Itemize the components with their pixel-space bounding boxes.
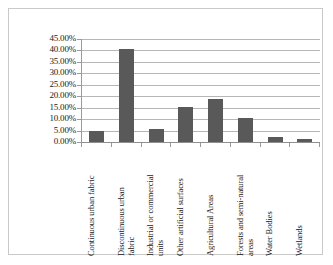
y-axis-tick-label: 45.00% [12, 34, 76, 43]
y-axis-tick-label: 25.00% [12, 80, 76, 89]
y-axis-tick-label: 35.00% [12, 57, 76, 66]
y-axis-tick-label: 0.00% [12, 137, 76, 146]
y-axis: 45.00%40.00%35.00%30.00%25.00%20.00%15.0… [9, 9, 81, 172]
x-axis-tick-mark [230, 143, 231, 147]
bar [119, 49, 134, 142]
y-axis-tick-label: 40.00% [12, 45, 76, 54]
x-axis-category-label: Continuous urban fabric [86, 148, 108, 256]
y-axis-tick-label: 15.00% [12, 103, 76, 112]
x-axis-category-label: Forests and semi-natural areas [235, 148, 257, 256]
x-axis-category-label: Industrial or commercial units [145, 148, 167, 256]
x-axis-tick-mark [141, 143, 142, 147]
x-axis-tick-mark [81, 143, 82, 147]
x-axis-tick-mark [260, 143, 261, 147]
bar [178, 107, 193, 142]
y-axis-tick-label: 20.00% [12, 91, 76, 100]
x-axis-labels: Continuous urban fabricDiscontinuous urb… [81, 148, 319, 258]
bar [208, 99, 223, 142]
y-axis-tick-label: 10.00% [12, 114, 76, 123]
x-axis-tick-mark [170, 143, 171, 147]
y-axis-tick-label: 30.00% [12, 68, 76, 77]
x-axis-category-label: Agricultural Areas [205, 148, 227, 256]
x-axis-category-label: Water Bodies [264, 148, 286, 256]
x-axis-category-label: Discontinuous urban fabric [116, 148, 138, 256]
bar [238, 118, 253, 142]
bar [89, 131, 104, 142]
x-axis-category-label: Other artificial surfaces [175, 148, 197, 256]
x-axis-tick-mark [111, 143, 112, 147]
x-axis-tick-mark [200, 143, 201, 147]
x-axis-category-label: Wetlands [294, 148, 316, 256]
bar-series [82, 39, 320, 142]
plot-area [81, 39, 319, 142]
bar [149, 129, 164, 142]
x-axis-tick-mark [289, 143, 290, 147]
x-axis-tick-mark [319, 143, 320, 147]
chart-frame: 45.00%40.00%35.00%30.00%25.00%20.00%15.0… [8, 8, 323, 255]
y-axis-tick-label: 5.00% [12, 126, 76, 135]
